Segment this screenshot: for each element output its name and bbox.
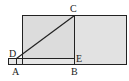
square-region <box>23 16 75 65</box>
geometry-diagram: C D E A B <box>0 0 129 81</box>
label-b: B <box>71 66 78 77</box>
label-d: D <box>9 48 16 59</box>
label-e: E <box>76 53 82 64</box>
small-strip <box>9 59 75 65</box>
label-a: A <box>12 66 20 77</box>
label-c: C <box>70 3 77 14</box>
